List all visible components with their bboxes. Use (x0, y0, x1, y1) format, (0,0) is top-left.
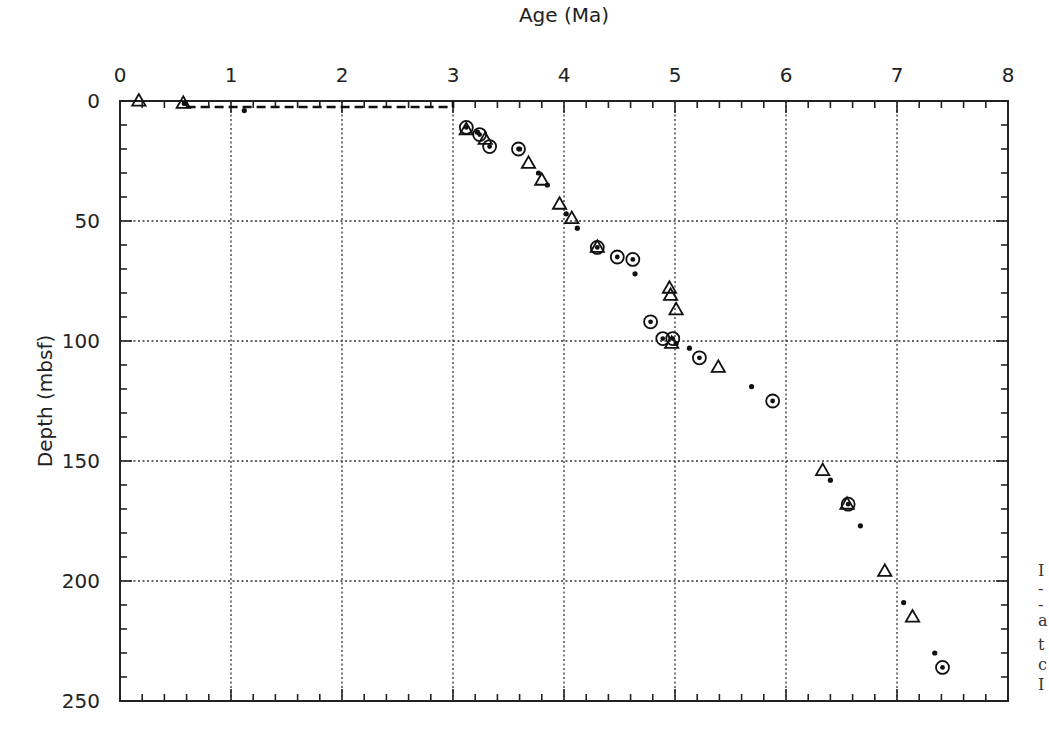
age-depth-chart: 012345678 050100150200250 Age (Ma) Depth… (0, 0, 1049, 744)
y-tick-label: 250 (62, 689, 100, 713)
y-tick-label: 150 (62, 449, 100, 473)
dot-marker (632, 271, 637, 276)
data-points (132, 94, 949, 674)
x-tick-label: 8 (1002, 63, 1015, 87)
x-tick-label: 3 (447, 63, 460, 87)
x-tick-label: 2 (336, 63, 349, 87)
circle-marker-center (670, 336, 675, 341)
dot-marker (536, 170, 541, 175)
x-tick-labels: 012345678 (114, 63, 1015, 87)
circle-marker-center (770, 399, 775, 404)
dot-marker (564, 211, 569, 216)
caption-fragment: a (1038, 612, 1048, 630)
circle-marker-center (630, 257, 635, 262)
circle-marker-center (940, 665, 945, 670)
x-tick-label: 5 (669, 63, 682, 87)
circle-marker-center (648, 319, 653, 324)
x-tick-label: 7 (891, 63, 904, 87)
circle-marker-center (697, 355, 702, 360)
y-tick-labels: 050100150200250 (62, 89, 100, 713)
dot-marker (545, 182, 550, 187)
dot-marker (749, 384, 754, 389)
triangle-marker (132, 94, 145, 106)
caption-fragment: t (1038, 636, 1044, 654)
y-tick-label: 50 (75, 209, 100, 233)
dot-marker (828, 478, 833, 483)
x-tick-label: 1 (225, 63, 238, 87)
y-tick-label: 0 (87, 89, 100, 113)
triangle-marker (522, 156, 535, 168)
triangle-marker (712, 360, 725, 372)
y-tick-label: 200 (62, 569, 100, 593)
dot-marker (517, 146, 522, 151)
dot-marker (242, 108, 247, 113)
dot-marker (858, 523, 863, 528)
caption-fragment: I (1038, 562, 1044, 580)
circle-marker-center (595, 245, 600, 250)
dot-marker (182, 101, 187, 106)
caption-fragment: I (1038, 676, 1044, 694)
dot-marker (475, 130, 480, 135)
dot-marker (674, 341, 679, 346)
triangle-marker (878, 564, 891, 576)
triangle-marker (906, 610, 919, 622)
triangle-marker (816, 464, 829, 476)
circle-marker-center (464, 125, 469, 130)
x-tick-label: 6 (780, 63, 793, 87)
y-axis-title: Depth (mbsf) (33, 335, 57, 468)
triangle-marker (669, 303, 682, 315)
circle-marker-center (660, 336, 665, 341)
circle-marker-center (487, 144, 492, 149)
grid-lines (120, 101, 1008, 701)
x-axis-title: Age (Ma) (519, 3, 609, 27)
dot-marker (687, 346, 692, 351)
dot-marker (901, 600, 906, 605)
dot-marker (932, 650, 937, 655)
dot-marker (575, 226, 580, 231)
circle-marker-center (615, 255, 620, 260)
x-tick-label: 4 (558, 63, 571, 87)
x-tick-label: 0 (114, 63, 127, 87)
y-tick-label: 100 (62, 329, 100, 353)
caption-fragment: c (1038, 656, 1047, 674)
circle-marker-center (846, 502, 851, 507)
triangle-marker (553, 197, 566, 209)
